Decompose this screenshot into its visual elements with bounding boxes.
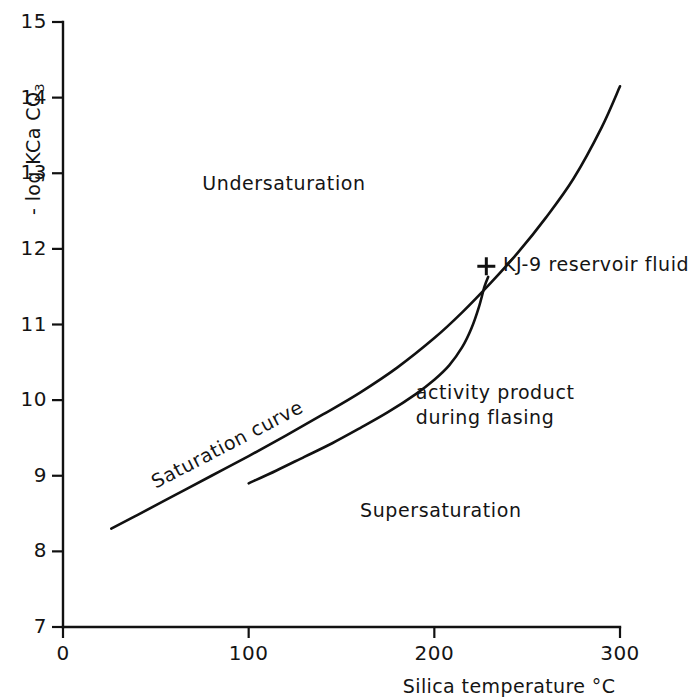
x-tick-label: 100	[209, 641, 289, 665]
activity-product-line2: during flasing	[416, 406, 555, 428]
x-tick-label: 0	[23, 641, 103, 665]
y-tick-label: 8	[1, 538, 47, 562]
y-tick-label: 11	[1, 312, 47, 336]
y-tick-label: 9	[1, 463, 47, 487]
x-tick-label: 300	[580, 641, 660, 665]
y-axis-title: - log KCa CO3	[22, 83, 44, 215]
y-axis-title-subscript: 3	[32, 83, 47, 92]
x-tick-label: 200	[394, 641, 474, 665]
supersaturation-label: Supersaturation	[360, 498, 522, 522]
kj9-reservoir-fluid-label: KJ-9 reservoir fluid	[503, 252, 689, 276]
activity-product-line1: activity product	[416, 381, 575, 403]
y-tick-label: 10	[1, 387, 47, 411]
x-axis-ticks	[63, 627, 620, 638]
y-tick-label: 12	[1, 236, 47, 260]
x-axis-title: Silica temperature °C	[403, 675, 616, 697]
y-axis-ticks	[52, 22, 63, 627]
y-axis-title-prefix: - log K	[22, 153, 44, 215]
activity-product-label: activity product during flasing	[416, 380, 606, 429]
kj9-plus-marker	[477, 257, 495, 275]
y-tick-label: 15	[1, 9, 47, 33]
y-axis-title-species: Ca CO	[22, 92, 44, 153]
undersaturation-label: Undersaturation	[202, 171, 365, 195]
y-tick-label: 7	[1, 614, 47, 638]
